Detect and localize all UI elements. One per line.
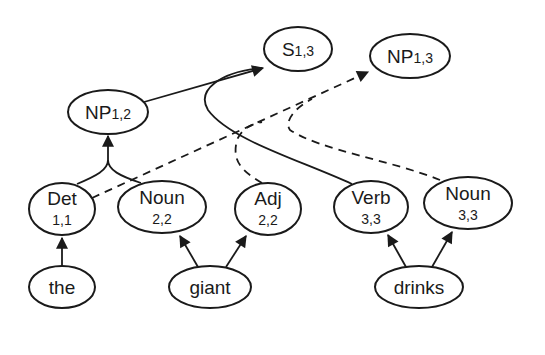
svg-text:NP1,2: NP1,2	[85, 102, 131, 123]
svg-text:S1,3: S1,3	[282, 39, 314, 60]
parse-chart-diagram: S1,3 NP1,3 NP1,2 Det 1,1 Noun 2,2 Adj 2,…	[0, 0, 545, 355]
edge-drinks-to-verb33	[388, 235, 406, 267]
node-noun22: Noun 2,2	[118, 181, 206, 233]
node-np12-label: NP	[85, 102, 111, 123]
node-s13-span: 1,3	[295, 43, 315, 59]
node-noun33: Noun 3,3	[424, 177, 512, 229]
node-noun22-span: 2,2	[152, 211, 172, 227]
edge-drinks-to-noun33	[432, 232, 452, 267]
edge-giant-to-noun22	[180, 236, 198, 267]
edge-np12-to-s13	[144, 68, 263, 102]
node-adj22-span: 2,2	[258, 212, 278, 228]
edge-det-to-np13	[92, 72, 368, 198]
node-np13: NP1,3	[370, 34, 450, 78]
edge-noun22-to-np12	[108, 160, 141, 183]
node-word-drinks-label: drinks	[394, 277, 445, 298]
node-det11: Det 1,1	[29, 183, 95, 235]
node-noun22-label: Noun	[139, 187, 184, 208]
node-det11-span: 1,1	[52, 212, 72, 228]
node-adj22: Adj 2,2	[235, 183, 301, 235]
node-word-the: the	[29, 266, 95, 308]
node-np13-label: NP	[387, 46, 413, 67]
node-np13-span: 1,3	[413, 50, 433, 66]
node-word-giant: giant	[169, 266, 251, 308]
node-verb33-label: Verb	[351, 187, 390, 208]
edge-det-to-np12	[77, 160, 108, 184]
svg-text:NP1,3: NP1,3	[387, 46, 433, 67]
node-adj22-label: Adj	[254, 188, 281, 209]
node-s13-label: S	[282, 39, 295, 60]
edge-giant-to-adj22	[226, 236, 246, 267]
node-noun33-label: Noun	[445, 183, 490, 204]
node-s13: S1,3	[264, 27, 332, 71]
node-verb33: Verb 3,3	[334, 181, 408, 233]
node-word-the-label: the	[49, 277, 75, 298]
node-np12: NP1,2	[68, 90, 148, 134]
node-det11-label: Det	[47, 188, 77, 209]
node-word-giant-label: giant	[189, 277, 231, 298]
node-verb33-span: 3,3	[361, 211, 381, 227]
edge-noun33-to-np13	[288, 99, 440, 180]
edge-verb33-to-s13	[205, 68, 352, 184]
node-word-drinks: drinks	[375, 266, 463, 308]
node-noun33-span: 3,3	[458, 207, 478, 223]
node-np12-span: 1,2	[111, 106, 131, 122]
